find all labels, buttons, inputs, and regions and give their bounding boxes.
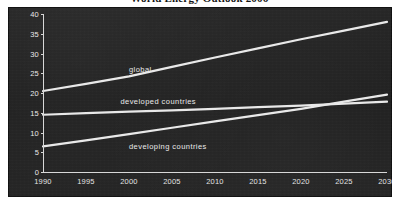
y-axis-tick-mark [41,54,44,55]
y-axis-tick-mark [41,14,44,15]
series-label-developing-countries: developing countries [129,142,207,151]
y-axis-tick-mark [41,73,44,74]
y-axis-tick-label: 5 [9,148,39,157]
x-axis-tick-label: 2005 [163,177,181,186]
series-line-global [43,22,387,91]
x-axis-tick-label: 2000 [120,177,138,186]
y-axis-tick-mark [41,133,44,134]
y-axis-tick-label: 30 [9,49,39,58]
y-axis-tick-mark [41,113,44,114]
y-axis-tick-label: 25 [9,69,39,78]
x-axis-tick-label: 2015 [249,177,267,186]
x-axis-line [43,172,387,173]
y-axis-tick-label: 0 [9,168,39,177]
line-chart-svg [8,7,392,197]
series-label-developed-countries: developed countries [120,97,196,106]
x-axis-tick-label: 2030 [378,177,392,186]
series-line-developing-countries [43,95,387,147]
chart-screenshot: World Energy Outlook 2006 05101520253035… [0,0,399,207]
chart-panel: 0510152025303540199019952000200520102015… [8,7,392,197]
y-axis-tick-label: 35 [9,29,39,38]
x-axis-tick-label: 2020 [292,177,310,186]
page-title: World Energy Outlook 2006 [0,0,399,4]
x-axis-tick-label: 2025 [335,177,353,186]
x-axis-tick-label: 1995 [77,177,95,186]
y-axis-tick-label: 10 [9,128,39,137]
y-axis-tick-label: 20 [9,89,39,98]
y-axis-tick-label: 40 [9,10,39,19]
plot-area: 0510152025303540199019952000200520102015… [8,7,392,197]
chart-title-clipped: World Energy Outlook 2006 [0,0,399,7]
y-axis-tick-label: 15 [9,108,39,117]
y-axis-tick-mark [41,93,44,94]
y-axis-tick-mark [41,172,44,173]
y-axis-tick-mark [41,34,44,35]
y-axis-tick-mark [41,152,44,153]
x-axis-tick-label: 1990 [34,177,52,186]
series-label-global: global [129,65,152,74]
x-axis-tick-label: 2010 [206,177,224,186]
